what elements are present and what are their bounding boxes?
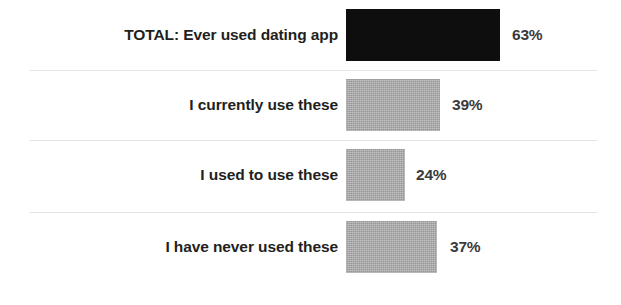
value-label: 24%	[416, 166, 446, 184]
value-label: 37%	[450, 238, 480, 256]
chart-row: I have never used these 37%	[0, 212, 621, 282]
bar-used-to-use	[346, 149, 405, 201]
horizontal-bar-chart: TOTAL: Ever used dating app 63% I curren…	[0, 0, 621, 305]
row-separator	[30, 140, 597, 141]
row-separator	[30, 70, 597, 71]
chart-row: I used to use these 24%	[0, 140, 621, 210]
value-label: 63%	[512, 26, 542, 44]
bar-total-ever-used	[346, 9, 500, 61]
category-label: I used to use these	[0, 166, 338, 183]
category-label: I currently use these	[0, 96, 338, 113]
category-label: TOTAL: Ever used dating app	[0, 26, 338, 43]
value-label: 39%	[452, 96, 482, 114]
chart-row: I currently use these 39%	[0, 70, 621, 140]
category-label: I have never used these	[0, 238, 338, 255]
chart-row: TOTAL: Ever used dating app 63%	[0, 0, 621, 70]
row-separator	[30, 212, 597, 213]
bar-currently-use	[346, 79, 440, 131]
bar-never-used	[346, 221, 437, 273]
